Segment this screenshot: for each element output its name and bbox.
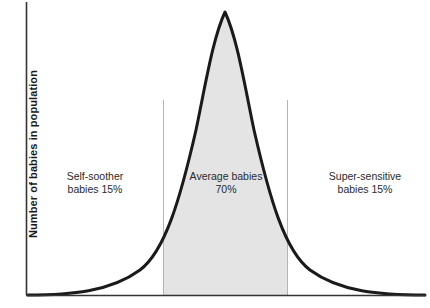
annotation-average-babies: Average babies 70% <box>166 170 286 196</box>
annotation-average-babies-line2: 70% <box>166 183 286 196</box>
annotation-super-sensitive: Super-sensitive babies 15% <box>303 170 427 196</box>
annotation-self-soother: Self-soother babies 15% <box>33 170 157 196</box>
annotation-super-sensitive-line2: babies 15% <box>303 183 427 196</box>
annotation-self-soother-line2: babies 15% <box>33 183 157 196</box>
annotation-self-soother-line1: Self-soother <box>33 170 157 183</box>
shaded-average-region <box>163 0 288 295</box>
annotation-super-sensitive-line1: Super-sensitive <box>303 170 427 183</box>
bell-curve-figure: Number of babies in population Self-soot… <box>0 0 430 308</box>
distribution-plot <box>0 0 430 308</box>
annotation-average-babies-line1: Average babies <box>166 170 286 183</box>
average-babies-fill <box>163 0 288 295</box>
